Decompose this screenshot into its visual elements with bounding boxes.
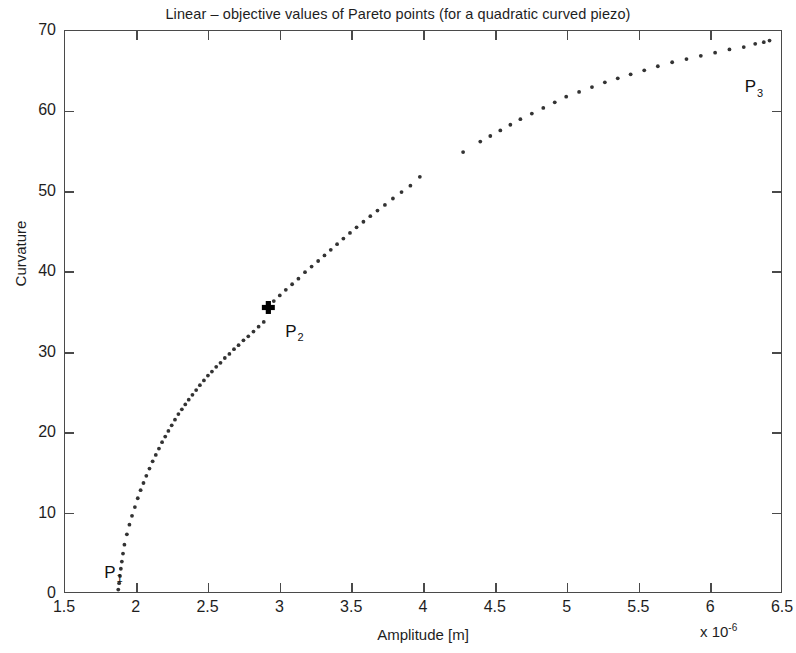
data-point — [362, 220, 366, 224]
x-tick-top — [495, 31, 497, 40]
data-point — [214, 365, 218, 369]
data-point — [223, 356, 227, 360]
annotation-subscript: 3 — [756, 87, 763, 99]
data-point — [148, 467, 152, 471]
x-tick-label: 3 — [275, 598, 284, 616]
cross-bar — [266, 301, 271, 314]
data-point — [341, 237, 345, 241]
data-point — [553, 100, 557, 104]
data-point — [728, 48, 732, 52]
x-tick-bottom — [136, 583, 138, 592]
data-point — [246, 334, 250, 338]
highlight-marker-p2 — [262, 301, 275, 314]
plot-area — [64, 30, 782, 593]
data-point — [210, 370, 214, 374]
series-pareto-front — [116, 39, 771, 592]
x-tick-label: 6.5 — [771, 598, 793, 616]
y-tick-label: 0 — [47, 584, 56, 602]
pareto-scatter-figure: Linear – objective values of Pareto poin… — [0, 0, 796, 653]
data-point — [498, 128, 502, 132]
x-tick-bottom — [639, 583, 641, 592]
data-point — [130, 514, 134, 518]
data-point — [157, 447, 161, 451]
data-point — [160, 440, 164, 444]
data-point — [753, 42, 757, 46]
y-tick-left — [65, 513, 74, 515]
x-tick-bottom — [208, 583, 210, 592]
data-point — [151, 459, 155, 463]
data-point — [180, 407, 184, 411]
x-tick-bottom — [710, 583, 712, 592]
data-point — [166, 429, 170, 433]
data-point — [120, 560, 124, 564]
x-tick-label: 4 — [419, 598, 428, 616]
y-tick-left — [65, 191, 74, 193]
y-axis-label: Curvature — [12, 189, 29, 319]
data-point — [278, 294, 282, 298]
data-point — [206, 374, 210, 378]
x-tick-top — [423, 31, 425, 40]
data-point — [488, 134, 492, 138]
x-tick-label: 3.5 — [340, 598, 362, 616]
annotation-p3: P3 — [745, 78, 763, 98]
data-point — [418, 175, 422, 179]
annotation-p2: P2 — [285, 323, 303, 343]
data-point — [383, 203, 387, 207]
data-point — [219, 361, 223, 365]
data-point — [290, 282, 294, 286]
data-point — [202, 379, 206, 383]
data-point — [136, 496, 140, 500]
data-point — [144, 474, 148, 478]
data-point — [257, 325, 261, 329]
x-tick-label: 6 — [706, 598, 715, 616]
data-point — [310, 265, 314, 269]
data-point — [177, 412, 181, 416]
data-point — [629, 72, 633, 76]
x-tick-label: 5.5 — [627, 598, 649, 616]
x-tick-top — [567, 31, 569, 40]
data-point — [541, 106, 545, 110]
data-point — [316, 259, 320, 263]
y-tick-left — [65, 271, 74, 273]
y-tick-left — [65, 352, 74, 354]
data-point — [284, 288, 288, 292]
x-tick-bottom — [567, 583, 569, 592]
y-tick-right — [772, 191, 781, 193]
data-point — [616, 76, 620, 80]
y-tick-right — [772, 513, 781, 515]
data-point — [194, 388, 198, 392]
data-point — [564, 95, 568, 99]
x-tick-label: 4.5 — [484, 598, 506, 616]
y-tick-left — [65, 432, 74, 434]
y-tick-label: 60 — [38, 101, 56, 119]
data-point — [232, 347, 236, 351]
annotation-p1: P1 — [104, 564, 122, 584]
data-point — [642, 68, 646, 72]
y-tick-label: 20 — [38, 423, 56, 441]
data-point — [461, 150, 465, 154]
x-tick-top — [351, 31, 353, 40]
data-point — [656, 64, 660, 68]
data-point — [518, 117, 522, 121]
data-point — [348, 231, 352, 235]
x-tick-top — [280, 31, 282, 40]
y-tick-label: 40 — [38, 262, 56, 280]
annotation-base: P — [745, 77, 756, 96]
data-point — [685, 57, 689, 61]
annotation-subscript: 1 — [116, 572, 123, 584]
data-point — [376, 209, 380, 213]
data-point — [577, 90, 581, 94]
data-point — [183, 403, 187, 407]
y-tick-left — [65, 111, 74, 113]
y-tick-right — [772, 352, 781, 354]
data-point — [391, 197, 395, 201]
data-point — [198, 383, 202, 387]
annotation-base: P — [285, 322, 296, 341]
data-point — [154, 453, 158, 457]
x-tick-label: 2 — [131, 598, 140, 616]
x-tick-top — [136, 31, 138, 40]
data-point — [242, 338, 246, 342]
data-point — [713, 51, 717, 55]
y-tick-label: 70 — [38, 21, 56, 39]
x-tick-bottom — [495, 583, 497, 592]
